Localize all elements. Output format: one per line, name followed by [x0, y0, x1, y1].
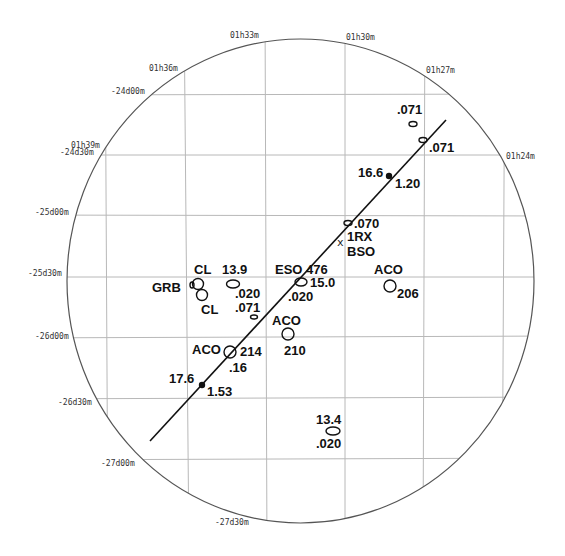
source-label: CL — [194, 262, 211, 277]
source-label: ACO — [272, 313, 301, 328]
coordinate-grid — [0, 0, 565, 556]
ra-tick-label: 01h30m — [346, 33, 375, 42]
dec-tick-label: -27d00m — [101, 459, 135, 468]
dec-tick-label: -24d30m — [60, 148, 94, 157]
dec-line-24d00m — [0, 94, 565, 95]
ra-line-01h33m — [265, 0, 267, 556]
src-aco206-ellipse-icon — [384, 280, 396, 292]
ra-tick-label: 01h36m — [149, 64, 178, 73]
dec-tick-label: -25d30m — [28, 269, 62, 278]
source-label: .071 — [397, 102, 422, 117]
source-label: .16 — [229, 360, 247, 375]
source-label: 13.9 — [222, 262, 247, 277]
source-label: 214 — [240, 344, 262, 359]
source-label: 15.0 — [310, 275, 335, 290]
ra-tick-label: 01h27m — [426, 66, 455, 75]
dot-17-6-icon — [199, 382, 205, 388]
dec-tick-label: -27d30m — [215, 518, 249, 527]
source-label: 17.6 — [169, 371, 194, 386]
source-label: .071 — [235, 300, 260, 315]
dec-tick-label: -26d00m — [35, 332, 69, 341]
ra-line-01h24m — [502, 0, 505, 556]
source-label: 210 — [284, 343, 306, 358]
src-13-4-ellipse-icon — [326, 427, 340, 435]
src-071-small-ellipse-icon — [251, 315, 258, 319]
src-aco210-ellipse-icon — [282, 328, 294, 340]
cross-marker-icon: x — [337, 236, 344, 249]
source-label: 16.6 — [358, 165, 383, 180]
source-label: 1RX — [347, 229, 373, 244]
dec-tick-label: -26d30m — [58, 398, 92, 407]
source-label: ACO — [374, 262, 403, 277]
source-label: 1.53 — [207, 384, 232, 399]
dec-line-27d00m — [0, 458, 565, 460]
source-label: 1.20 — [395, 176, 420, 191]
dec-tick-label: -25d00m — [35, 208, 69, 217]
dec-tick-label: -24d00m — [111, 87, 145, 96]
source-label: .020 — [235, 286, 260, 301]
src-071-top-ellipse-icon — [409, 122, 417, 127]
src-071-line-ellipse-icon — [419, 138, 427, 143]
source-label: CL — [201, 302, 218, 317]
ra-line-01h39m — [105, 0, 108, 556]
source-label: 206 — [397, 286, 419, 301]
source-label: GRB — [152, 280, 181, 295]
ra-line-01h36m — [184, 0, 189, 556]
sky-map: 01h39m01h36m01h33m01h30m01h27m01h24m -24… — [0, 0, 565, 556]
source-label: .020 — [316, 436, 341, 451]
dot-16-6-icon — [386, 173, 392, 179]
dec-line-25d00m — [0, 215, 565, 216]
ra-tick-label: 01h24m — [506, 152, 535, 161]
source-label: 13.4 — [316, 412, 342, 427]
ra-tick-label: 01h33m — [230, 31, 259, 40]
source-label: BSO — [347, 244, 375, 259]
src-cl-lower-ellipse-icon — [197, 290, 208, 301]
source-label: .071 — [429, 140, 454, 155]
field-boundary-circle — [67, 39, 534, 523]
src-aco214-ellipse-icon — [224, 346, 236, 358]
ra-tick-labels: 01h39m01h36m01h33m01h30m01h27m01h24m — [71, 31, 535, 161]
source-label: ACO — [192, 342, 221, 357]
source-label: .020 — [288, 289, 313, 304]
ra-line-01h27m — [423, 0, 425, 556]
